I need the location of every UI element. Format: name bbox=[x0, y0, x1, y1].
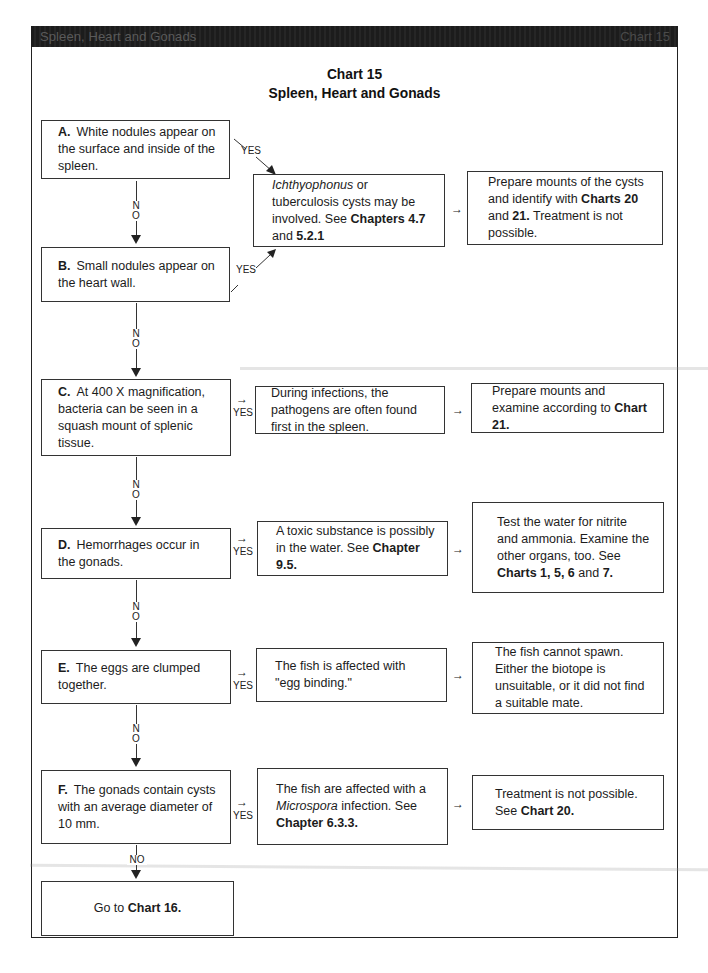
diagnosis-f-italic: Microspora bbox=[276, 799, 338, 813]
right-arrow-icon: → bbox=[236, 532, 248, 544]
right-arrow-icon: → bbox=[236, 393, 248, 405]
question-text-b: Small nodules appear on the heart wall. bbox=[58, 259, 215, 290]
diagnosis-box-d[interactable]: A toxic substance is possibly in the wat… bbox=[257, 521, 448, 576]
arrow-down-icon bbox=[131, 758, 141, 767]
action-ab-ref2: 21. bbox=[512, 209, 529, 223]
diagnosis-ab-mid: and bbox=[272, 229, 296, 243]
diagnosis-e-text: The fish is affected with "egg binding." bbox=[275, 659, 405, 690]
arrow-down-icon bbox=[131, 235, 141, 244]
action-d-mid: and bbox=[575, 566, 603, 580]
right-arrow-icon: → bbox=[236, 666, 248, 678]
question-label-d: D. bbox=[58, 538, 71, 552]
question-label-c: C. bbox=[58, 385, 71, 399]
diagnosis-c-text: During infections, the pathogens are oft… bbox=[271, 386, 417, 434]
diagnosis-box-e[interactable]: The fish is affected with "egg binding." bbox=[256, 648, 447, 702]
question-box-f[interactable]: F.The gonads contain cysts with an avera… bbox=[41, 770, 231, 844]
action-c-text: Prepare mounts and examine according to bbox=[492, 384, 614, 415]
diagnosis-box-f[interactable]: The fish are affected with a Microspora … bbox=[257, 768, 448, 845]
arrow-down-icon bbox=[131, 638, 141, 647]
right-arrow-icon: → bbox=[452, 669, 464, 681]
action-box-c[interactable]: Prepare mounts and examine according to … bbox=[471, 383, 664, 433]
question-text-e: The eggs are clumped together. bbox=[58, 661, 200, 692]
question-box-a[interactable]: A.White nodules appear on the surface an… bbox=[41, 120, 230, 179]
no-label-e: NO bbox=[131, 724, 141, 744]
action-box-f[interactable]: Treatment is not possible. See Chart 20. bbox=[472, 775, 664, 830]
action-box-e[interactable]: The fish cannot spawn. Either the biotop… bbox=[472, 642, 664, 714]
right-arrow-icon: → bbox=[452, 404, 464, 416]
action-d-ref1: Charts 1, 5, 6 bbox=[497, 566, 575, 580]
question-text-a: White nodules appear on the surface and … bbox=[58, 125, 215, 173]
yes-label-b: YES bbox=[236, 264, 256, 275]
question-label-a: A. bbox=[58, 125, 71, 139]
diagnosis-f-ref: Chapter 6.3.3. bbox=[276, 816, 358, 830]
no-label-b: NO bbox=[131, 329, 141, 349]
no-label-f: NO bbox=[127, 855, 147, 865]
no-label-d: NO bbox=[131, 602, 141, 622]
action-box-d[interactable]: Test the water for nitrite and ammonia. … bbox=[472, 502, 664, 593]
diagnosis-f-text1: The fish are affected with a bbox=[276, 782, 426, 796]
action-box-ab[interactable]: Prepare mounts of the cysts and identify… bbox=[467, 171, 663, 245]
question-box-b[interactable]: B.Small nodules appear on the heart wall… bbox=[41, 247, 230, 302]
question-box-c[interactable]: C.At 400 X magnification, bacteria can b… bbox=[41, 379, 231, 456]
diagnosis-ab-italic: Ichthyophonus bbox=[272, 178, 353, 192]
no-label-c: NO bbox=[131, 480, 141, 500]
action-f-ref: Chart 20. bbox=[521, 804, 575, 818]
arrow-down-icon bbox=[131, 870, 141, 879]
go-to-next-chart-box[interactable]: Go to Chart 16. bbox=[41, 881, 234, 936]
question-box-d[interactable]: D.Hemorrhages occur in the gonads. bbox=[41, 528, 231, 579]
action-ab-ref1: Charts 20 bbox=[581, 192, 638, 206]
right-arrow-icon: → bbox=[452, 543, 464, 555]
diagnosis-ab-ref1: Chapters 4.7 bbox=[351, 212, 426, 226]
right-arrow-icon: → bbox=[452, 798, 464, 810]
diagnosis-box-c[interactable]: During infections, the pathogens are oft… bbox=[255, 386, 445, 434]
yes-label-a: YES bbox=[241, 145, 261, 156]
question-text-f: The gonads contain cysts with an average… bbox=[58, 783, 215, 831]
action-d-ref2: 7. bbox=[603, 566, 613, 580]
yes-label-f: YES bbox=[233, 810, 253, 821]
action-d-text: Test the water for nitrite and ammonia. … bbox=[497, 515, 649, 563]
right-arrow-icon: → bbox=[451, 203, 463, 215]
final-text: Go to bbox=[94, 901, 128, 915]
diagnosis-ab-ref2: 5.2.1 bbox=[296, 229, 324, 243]
final-chart-ref[interactable]: Chart 16. bbox=[128, 901, 182, 915]
yes-label-c: YES bbox=[233, 407, 253, 418]
action-ab-mid: and bbox=[488, 209, 512, 223]
action-e-text: The fish cannot spawn. Either the biotop… bbox=[495, 645, 644, 710]
right-arrow-icon: → bbox=[236, 796, 248, 808]
yes-label-e: YES bbox=[233, 680, 253, 691]
diagnosis-f-text2: infection. See bbox=[338, 799, 417, 813]
diagnosis-box-ab[interactable]: Ichthyophonus or tuberculosis cysts may … bbox=[253, 174, 445, 247]
question-text-d: Hemorrhages occur in the gonads. bbox=[58, 538, 199, 569]
arrow-down-icon bbox=[131, 368, 141, 377]
question-label-e: E. bbox=[58, 661, 70, 675]
yes-label-d: YES bbox=[233, 546, 253, 557]
arrow-down-icon bbox=[131, 517, 141, 526]
question-label-b: B. bbox=[58, 259, 71, 273]
question-text-c: At 400 X magnification, bacteria can be … bbox=[58, 385, 205, 450]
question-box-e[interactable]: E.The eggs are clumped together. bbox=[41, 650, 231, 704]
question-label-f: F. bbox=[58, 783, 68, 797]
no-label-a: NO bbox=[131, 201, 141, 221]
